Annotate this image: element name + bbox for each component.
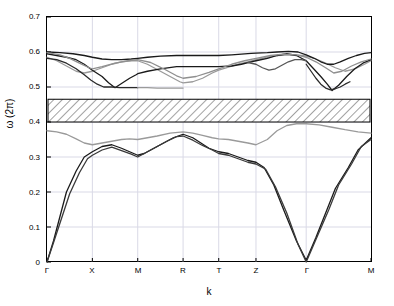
acoustic-band-2 — [47, 136, 371, 262]
chart-container: ω (2π) k 0 0.1 0.2 0.3 0.4 0.5 0.6 0.7 Γ… — [0, 0, 394, 306]
band-3-gray — [47, 124, 371, 145]
band-6-top-black — [47, 51, 371, 64]
band-11-z-cluster — [248, 60, 306, 70]
band-gap-region — [48, 99, 370, 122]
band-structure-plot — [0, 0, 394, 306]
